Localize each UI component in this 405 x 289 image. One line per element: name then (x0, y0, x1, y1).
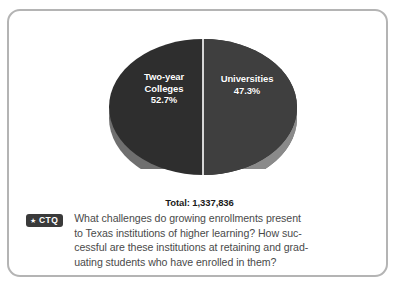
ctq-callout: ★ CTQ What challenges do growing enrollm… (26, 211, 376, 270)
chart-total-label: Total: 1,337,836 (9, 197, 390, 208)
pie-slice-universities (203, 39, 297, 175)
ctq-badge: ★ CTQ (26, 214, 63, 227)
ctq-question-line-2: to Texas institutions of higher learning… (74, 226, 308, 241)
pie-chart: Two-year Colleges 52.7% Universities 47.… (108, 21, 298, 201)
figure-card: Two-year Colleges 52.7% Universities 47.… (7, 9, 388, 277)
ctq-badge-label: CTQ (39, 216, 58, 225)
ctq-question-text: What challenges do growing enrollments p… (74, 211, 308, 270)
ctq-question-line-3: cessful are these institutions at retain… (74, 240, 308, 255)
ctq-question-line-1: What challenges do growing enrollments p… (74, 211, 308, 226)
star-icon: ★ (30, 217, 36, 224)
ctq-question-line-4: uating students who have enrolled in the… (74, 255, 308, 270)
pie-chart-svg (108, 21, 298, 201)
